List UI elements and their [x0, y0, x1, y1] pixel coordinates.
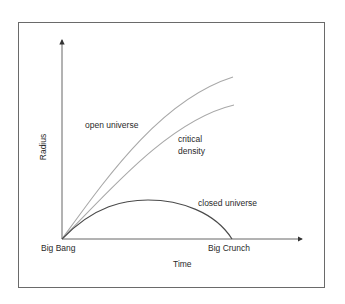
critical-density-label-line1: critical	[178, 134, 202, 144]
y-axis-label: Radius	[38, 134, 48, 160]
critical-density-label-line2: density	[178, 146, 205, 156]
x-axis-label: Time	[173, 259, 192, 269]
closed-universe-label: closed universe	[198, 198, 257, 208]
open-universe-label: open universe	[85, 120, 138, 130]
big-bang-label: Big Bang	[41, 243, 76, 253]
big-crunch-label: Big Crunch	[208, 243, 250, 253]
